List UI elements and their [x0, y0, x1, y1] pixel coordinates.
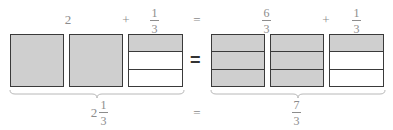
fraction-bar [99, 112, 108, 113]
left-brace-icon [8, 89, 186, 99]
thirds-square-1 [211, 34, 265, 87]
denominator: 3 [294, 115, 300, 127]
fraction-one-third: 1 3 [150, 7, 159, 35]
plus-sign-2: + [320, 13, 332, 26]
fraction-bar [150, 20, 159, 21]
whole-number-two: 2 [62, 13, 74, 26]
shaded-third [129, 35, 182, 51]
fraction-bar [262, 20, 271, 21]
fraction-six-thirds: 6 3 [262, 7, 271, 35]
shaded-third [330, 35, 383, 51]
third-square [128, 34, 183, 87]
numerator: 1 [152, 7, 158, 19]
shaded-third [271, 51, 323, 68]
whole-square-1 [10, 34, 64, 87]
thirds-square-3 [329, 34, 384, 87]
empty-third [330, 51, 383, 68]
shaded-third [212, 35, 264, 51]
empty-third [129, 69, 182, 86]
empty-third [129, 51, 182, 68]
fraction-seven-thirds: 7 3 [292, 99, 301, 127]
equals-sign: = [191, 13, 203, 26]
thirds-square-2 [270, 34, 324, 87]
plus-sign: + [120, 13, 132, 26]
numerator: 6 [264, 7, 270, 19]
middle-equals-sign: = [190, 51, 201, 69]
shaded-third [212, 51, 264, 68]
fraction-bar [292, 112, 301, 113]
shaded-third [271, 35, 323, 51]
empty-third [330, 69, 383, 86]
fraction-bar [352, 20, 361, 21]
numerator: 1 [354, 7, 360, 19]
shaded-third [212, 69, 264, 86]
bottom-equals-sign: = [191, 106, 203, 119]
shaded-third [271, 69, 323, 86]
mixed-whole-two: 2 [89, 106, 99, 119]
denominator: 3 [101, 115, 107, 127]
mixed-fraction-one-third: 1 3 [99, 99, 108, 127]
whole-square-2 [69, 34, 123, 87]
numerator: 1 [101, 99, 107, 111]
numerator: 7 [294, 99, 300, 111]
fraction-one-third-2: 1 3 [352, 7, 361, 35]
